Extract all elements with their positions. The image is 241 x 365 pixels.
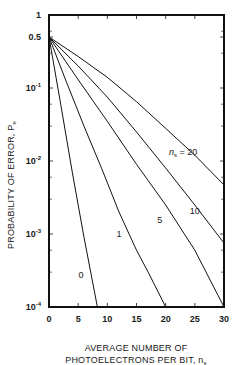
y-axis-title: PROBABILITY OF ERROR, Pe (6, 121, 17, 249)
curve-labels: ns = 2010510 (79, 147, 200, 280)
plot-frame (49, 15, 224, 307)
x-tick-label: 5 (76, 314, 81, 324)
error-probability-chart: 051015202530 10.510-110-210-310-4 ns = 2… (0, 0, 241, 365)
curve-label: 1 (116, 229, 121, 239)
x-axis-title-line1: AVERAGE NUMBER OF (85, 343, 188, 353)
curve-label: ns = 20 (169, 147, 197, 158)
curve-ns-0 (49, 37, 97, 307)
curves (49, 37, 224, 307)
x-tick-label: 25 (190, 314, 200, 324)
x-tick-label: 10 (102, 314, 112, 324)
x-tick-label: 30 (219, 314, 229, 324)
y-tick-label: 10-1 (26, 82, 42, 93)
y-tick-label: 10-3 (26, 228, 42, 239)
plot-border (49, 15, 224, 307)
curve-ns-20 (49, 37, 224, 185)
y-tick-label: 1 (36, 10, 41, 20)
y-tick-label: 10-4 (26, 301, 42, 312)
x-tick-label: 20 (161, 314, 171, 324)
y-tick-label: 0.5 (28, 32, 41, 42)
y-axis-ticks: 10.510-110-210-310-4 (26, 10, 224, 312)
curve-label: 10 (190, 206, 200, 216)
curve-ns-5 (49, 37, 224, 307)
curve-label: 0 (79, 270, 84, 280)
x-tick-label: 0 (46, 314, 51, 324)
y-tick-label: 10-2 (26, 155, 42, 166)
x-axis-title-line2: PHOTOELECTRONS PER BIT, ns (65, 355, 207, 365)
x-tick-label: 15 (131, 314, 141, 324)
curve-label: 5 (157, 215, 162, 225)
